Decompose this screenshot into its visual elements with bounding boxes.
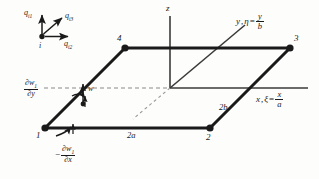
y-axis-symbol: y [236,17,240,26]
dw1dx-numerator: ∂w1 [61,145,75,155]
rotation-dw1dx-group [56,124,73,136]
node-dot-4 [121,44,128,51]
dw1dy-fraction: ∂w1 ∂y [24,79,38,98]
node-label-3: 3 [294,34,299,43]
y-equals: = [250,17,255,26]
dof-legend-node-dot [39,34,44,39]
dimension-label-2b: 2b [219,103,228,112]
figure-canvas: qi1 qi3 qi2 i z y, η = y b x, ξ = x a [0,0,319,179]
xi-symbol: ξ [264,95,268,104]
node-dot-3 [286,44,293,51]
q-i1-label: qi1 [24,9,32,19]
node-label-1: 1 [36,131,41,140]
node-label-2: 2 [206,133,211,142]
q-i3-label: qi3 [65,12,73,22]
y-axis-dashed-extension [133,88,170,119]
dof-legend-node-label: i [39,42,41,50]
dw1dy-denominator: ∂y [24,89,38,98]
rotation-label-dw1dx: − ∂w1 ∂x [55,145,75,164]
dimension-label-2a: 2a [127,131,136,140]
q-i3-arrow [44,18,63,34]
dw1dx-minus-sign: − [55,150,60,159]
y-axis-line [170,25,245,88]
rotation-label-dw1dy: ∂w1 ∂y [24,79,38,98]
x-axis-label: x, ξ = x a [256,90,283,108]
dof-legend-group [39,15,68,39]
z-axis-label: z [166,4,170,13]
node-dot-1 [41,124,48,131]
eta-fraction: y b [256,12,264,30]
xi-fraction: x a [275,90,283,108]
dw1dx-denominator: ∂x [61,155,75,164]
x-equals: = [269,95,274,104]
deflection-label-w: w [88,85,93,93]
eta-symbol: η [244,17,248,26]
dw1dx-fraction: ∂w1 ∂x [61,145,75,164]
dw1dy-numerator: ∂w1 [24,79,38,89]
y-axis-label: y, η = y b [236,12,264,30]
q-i2-label: qi2 [64,40,72,50]
node-label-4: 4 [117,34,122,43]
node-dot-2 [206,124,213,131]
x-axis-symbol: x [256,95,260,104]
